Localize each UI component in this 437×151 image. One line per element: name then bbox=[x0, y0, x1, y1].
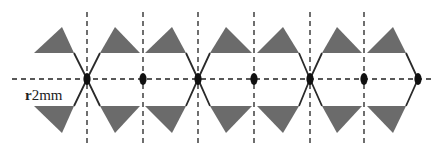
hinge-node-5 bbox=[306, 73, 313, 85]
triangle-lattice-diagram: r2mm bbox=[0, 0, 437, 151]
top-triangle-2 bbox=[100, 27, 140, 53]
top-triangle-4 bbox=[210, 27, 252, 53]
top-triangle-5 bbox=[257, 27, 299, 53]
hinge-node-3 bbox=[194, 73, 201, 85]
bottom-triangle-row bbox=[34, 106, 406, 133]
bottom-triangle-5 bbox=[257, 106, 299, 133]
bottom-triangle-1 bbox=[34, 106, 74, 133]
top-triangle-1 bbox=[34, 27, 74, 53]
bottom-triangle-3 bbox=[145, 106, 186, 133]
bottom-triangle-4 bbox=[210, 106, 252, 133]
bottom-triangle-6 bbox=[322, 106, 362, 133]
top-triangle-row bbox=[34, 27, 406, 53]
hinge-node-7 bbox=[414, 73, 421, 85]
hinge-node-2 bbox=[139, 73, 146, 85]
dimension-label: r2mm bbox=[25, 87, 63, 103]
top-triangle-7 bbox=[367, 27, 406, 53]
bottom-triangle-7 bbox=[367, 106, 406, 133]
hinge-nodes bbox=[83, 73, 421, 85]
bottom-triangle-2 bbox=[100, 106, 140, 133]
hinge-node-1 bbox=[83, 73, 90, 85]
hinge-node-6 bbox=[360, 73, 367, 85]
hinge-node-4 bbox=[250, 73, 257, 85]
top-triangle-3 bbox=[145, 27, 186, 53]
dimension-label-value: 2mm bbox=[32, 87, 63, 103]
top-triangle-6 bbox=[322, 27, 362, 53]
